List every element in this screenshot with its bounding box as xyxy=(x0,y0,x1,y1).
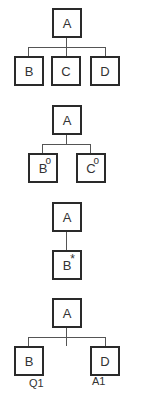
connector-line xyxy=(28,337,106,338)
node-label: A xyxy=(63,210,72,225)
node-a: A xyxy=(52,298,82,328)
node-annotation: Q1 xyxy=(29,378,44,389)
node-marker: * xyxy=(70,254,75,264)
node-d: D xyxy=(90,56,120,86)
node-label: D xyxy=(100,354,109,369)
connector-line xyxy=(105,337,106,346)
node-b: B * xyxy=(52,250,82,280)
node-label: D xyxy=(100,64,109,79)
node-c: C o xyxy=(76,153,106,183)
node-marker: o xyxy=(45,156,51,166)
connector-line xyxy=(28,47,29,56)
connector-line xyxy=(66,232,67,250)
node-label: A xyxy=(63,306,72,321)
node-label: A xyxy=(63,16,72,31)
connector-line xyxy=(28,337,29,346)
node-label: B xyxy=(25,354,34,369)
connector-line xyxy=(42,144,43,153)
node-label: A xyxy=(63,113,72,128)
node-label: B xyxy=(25,64,34,79)
node-b: B xyxy=(14,346,44,376)
connector-line xyxy=(90,144,91,153)
connector-line xyxy=(66,47,67,56)
node-marker: o xyxy=(93,156,99,166)
connector-line xyxy=(28,47,106,48)
node-a: A xyxy=(52,202,82,232)
node-a: A xyxy=(52,105,82,135)
node-d: D xyxy=(90,346,120,376)
node-label: C xyxy=(61,64,70,79)
connector-line xyxy=(105,47,106,56)
node-b: B xyxy=(14,56,44,86)
node-b: B o xyxy=(28,153,58,183)
node-annotation: A1 xyxy=(92,376,105,387)
node-c: C xyxy=(51,56,81,86)
node-a: A xyxy=(52,8,82,38)
connector-line xyxy=(42,144,91,145)
